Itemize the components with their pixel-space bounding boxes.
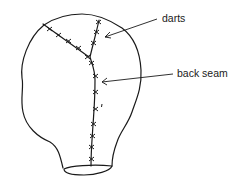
- darts-leader-line: [105, 19, 157, 37]
- darts-label: darts: [162, 13, 185, 24]
- stitch-cross-icon: [47, 27, 52, 31]
- head-form-diagram: [0, 0, 243, 183]
- stitch-cross-icon: [93, 90, 98, 94]
- back-seam-label: back seam: [177, 68, 228, 79]
- back-seam-leader-line: [102, 74, 173, 82]
- head-outline: [22, 14, 141, 168]
- tick-mark: [102, 104, 103, 107]
- neck-opening: [64, 165, 112, 175]
- stitch-cross-icon: [56, 33, 61, 37]
